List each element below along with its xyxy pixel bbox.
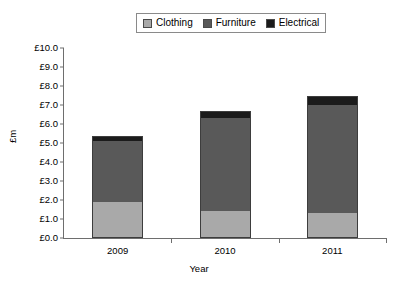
y-axis-tick-mark (60, 143, 64, 144)
x-axis-category-label: 2009 (107, 246, 128, 256)
x-axis-category-label: 2010 (214, 246, 235, 256)
y-axis-tick-mark (60, 200, 64, 201)
x-axis-tick-mark (171, 238, 172, 243)
bar-segment-furniture-2010 (200, 118, 251, 211)
x-axis-tick-mark (386, 238, 387, 243)
x-axis-title: Year (0, 264, 398, 274)
legend-label: Electrical (279, 18, 320, 28)
y-axis-title: £m (8, 130, 18, 143)
y-axis-tick-mark (60, 238, 64, 239)
y-axis-tick-mark (60, 67, 64, 68)
bar-2009 (92, 136, 143, 238)
y-axis-tick-mark (60, 86, 64, 87)
bar-segment-electrical-2010 (200, 111, 251, 119)
legend-swatch-icon (266, 19, 275, 28)
bar-2011 (307, 96, 358, 239)
y-axis-tick-mark (60, 219, 64, 220)
bar-2010 (200, 111, 251, 238)
y-axis-tick-mark (60, 124, 64, 125)
legend-swatch-icon (143, 19, 152, 28)
bar-segment-furniture-2011 (307, 105, 358, 213)
legend-label: Furniture (216, 18, 256, 28)
y-axis-tick-mark (60, 48, 64, 49)
bar-segment-electrical-2011 (307, 96, 358, 106)
chart-legend: ClothingFurnitureElectrical (136, 13, 326, 33)
legend-entry: Furniture (203, 18, 256, 28)
bar-segment-clothing-2010 (200, 211, 251, 238)
bar-segment-clothing-2009 (92, 202, 143, 238)
y-axis-tick-mark (60, 181, 64, 182)
legend-entry: Electrical (266, 18, 320, 28)
bar-segment-furniture-2009 (92, 141, 143, 202)
x-axis-category-label: 2011 (322, 246, 342, 256)
bar-segment-clothing-2011 (307, 213, 358, 238)
legend-label: Clothing (156, 18, 193, 28)
x-axis-tick-mark (279, 238, 280, 243)
y-axis-tick-mark (60, 162, 64, 163)
legend-entry: Clothing (143, 18, 193, 28)
plot-area: £10.0£9.0£8.0£7.0£6.0£5.0£4.0£3.0£2.0£1.… (63, 48, 386, 239)
legend-swatch-icon (203, 19, 212, 28)
y-axis-tick-mark (60, 105, 64, 106)
stacked-bar-chart: ClothingFurnitureElectrical £10.0£9.0£8.… (0, 0, 398, 288)
